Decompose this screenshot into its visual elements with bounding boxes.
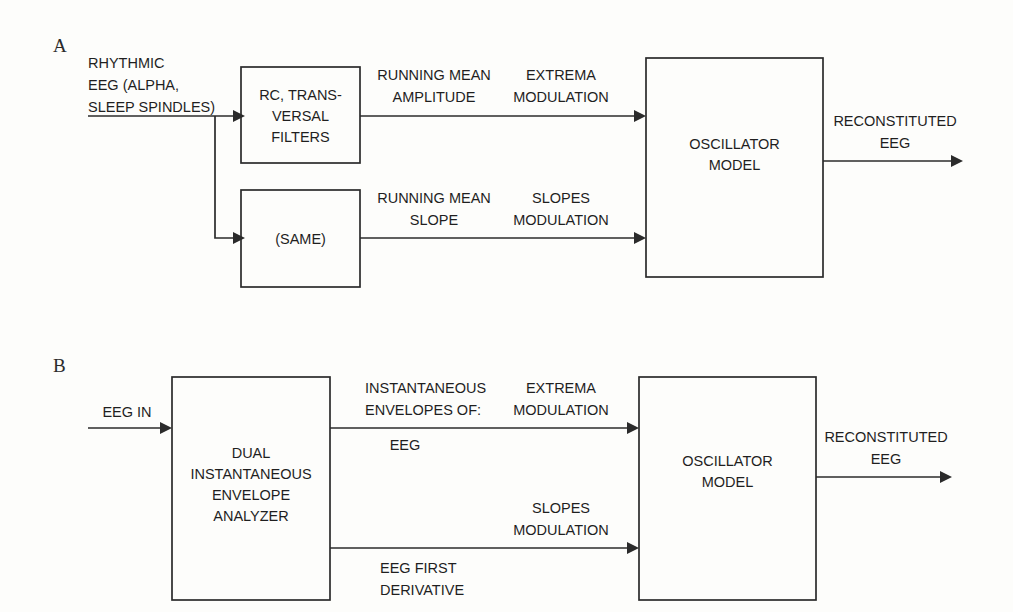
signal-running-mean-amplitude-line2: AMPLITUDE (393, 89, 476, 105)
signal-running-mean-amplitude-line1: RUNNING MEAN (377, 67, 491, 83)
signal-eeg-first-derivative-line2: DERIVATIVE (380, 582, 464, 598)
signal-reconstituted-eeg-b-line2: EEG (871, 451, 902, 467)
signal-slopes-modulation-b-line1: SLOPES (532, 500, 590, 516)
panel-a-top-signal-arrowhead (634, 110, 646, 122)
panel-b-output-arrowhead (940, 471, 952, 483)
block-analyzer-label-line4: ANALYZER (213, 508, 288, 524)
signal-eeg-first-derivative-line1: EEG FIRST (380, 560, 457, 576)
signal-extrema-modulation-a-line2: MODULATION (513, 89, 609, 105)
signal-extrema-modulation-b-line1: EXTREMA (526, 380, 596, 396)
panel-a-output-arrowhead (951, 155, 963, 167)
panel-b-top-signal-arrowhead (627, 422, 639, 434)
block-rc-label-line3: FILTERS (271, 129, 330, 145)
panel-a-input-label-line2: EEG (ALPHA, (88, 77, 179, 93)
panel-a: A RHYTHMIC EEG (ALPHA, SLEEP SPINDLES) R… (53, 35, 963, 287)
block-analyzer-label-line2: INSTANTANEOUS (190, 466, 311, 482)
signal-envelopes-eeg-label: EEG (390, 437, 421, 453)
signal-slopes-modulation-a-line2: MODULATION (513, 212, 609, 228)
signal-slopes-modulation-a-line1: SLOPES (532, 190, 590, 206)
panel-b-input-label: EEG IN (102, 404, 151, 420)
block-rc-label-line2: VERSAL (272, 108, 329, 124)
block-oscillator-model-a-label-line2: MODEL (709, 157, 761, 173)
signal-instantaneous-envelopes-line2: ENVELOPES OF: (365, 402, 481, 418)
panel-a-input-label-line1: RHYTHMIC (88, 55, 165, 71)
block-oscillator-model-a-label-line1: OSCILLATOR (689, 136, 780, 152)
signal-instantaneous-envelopes-line1: INSTANTANEOUS (365, 380, 486, 396)
panel-b-input-arrowhead (160, 422, 172, 434)
panel-b-bottom-signal-arrowhead (627, 542, 639, 554)
panel-a-input-arrowhead (233, 110, 245, 122)
signal-reconstituted-eeg-a-line2: EEG (880, 135, 911, 151)
signal-slopes-modulation-b-line2: MODULATION (513, 522, 609, 538)
panel-a-branch-arrowhead (233, 232, 245, 244)
signal-running-mean-slope-line2: SLOPE (410, 212, 459, 228)
block-oscillator-model-b-label-line2: MODEL (702, 474, 754, 490)
block-analyzer-label-line1: DUAL (232, 445, 271, 461)
panel-a-bottom-signal-arrowhead (634, 232, 646, 244)
panel-b: B EEG IN DUAL INSTANTANEOUS ENVELOPE ANA… (53, 355, 952, 600)
signal-running-mean-slope-line1: RUNNING MEAN (377, 190, 491, 206)
panel-a-branch-line (215, 116, 233, 238)
panel-a-input-label-line3: SLEEP SPINDLES) (88, 99, 215, 115)
panel-b-letter: B (53, 355, 66, 376)
panel-a-letter: A (53, 35, 67, 56)
block-analyzer-label-line3: ENVELOPE (212, 487, 290, 503)
signal-extrema-modulation-b-line2: MODULATION (513, 402, 609, 418)
signal-extrema-modulation-a-line1: EXTREMA (526, 67, 596, 83)
block-same-label: (SAME) (275, 231, 326, 247)
signal-reconstituted-eeg-a-line1: RECONSTITUTED (833, 113, 956, 129)
signal-reconstituted-eeg-b-line1: RECONSTITUTED (824, 429, 947, 445)
block-oscillator-model-b-label-line1: OSCILLATOR (682, 453, 773, 469)
block-rc-label-line1: RC, TRANS- (259, 87, 342, 103)
block-diagram-figure: A RHYTHMIC EEG (ALPHA, SLEEP SPINDLES) R… (0, 0, 1013, 612)
